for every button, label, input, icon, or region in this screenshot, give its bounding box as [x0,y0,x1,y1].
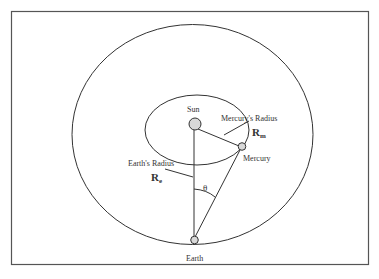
earth-orbit [72,25,313,245]
earth-radius-pointer [165,169,193,177]
mercury-body [238,143,246,151]
mercury-radius-pointer [224,121,249,135]
earth-body [191,236,199,244]
earth-radius-label: Earth's Radius [128,159,174,168]
mercury-label: Mercury [243,154,271,163]
earth-mercury-line [195,150,240,237]
sun-mercury-line [198,129,239,146]
re-label: Re [151,171,162,185]
earth-label: Earth [186,254,203,263]
mercury-radius-label: Mercury's Radius [221,114,277,123]
orbit-diagram: Sun Mercury's Radius Rm Mercury Earth's … [0,0,379,279]
theta-label: θ [203,183,207,193]
sun-body [189,118,201,130]
rm-label: Rm [252,126,266,140]
sun-label: Sun [187,105,199,114]
diagram-frame [12,12,369,265]
